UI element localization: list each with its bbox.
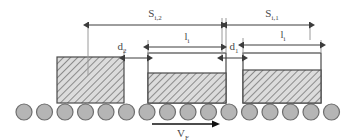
roller <box>262 104 278 120</box>
label-spacing-left: Si,2 <box>148 7 162 22</box>
slab-left <box>57 57 124 103</box>
slab-right <box>243 53 321 103</box>
dimension-length-right: li <box>244 28 320 45</box>
dimension-length-middle: li <box>149 30 221 47</box>
roller <box>221 104 237 120</box>
roller-row <box>16 104 340 120</box>
schematic-svg: Si,2 Si,1 d2 li d1 li VF <box>0 0 347 140</box>
dimension-spacing-right: Si,1 <box>227 7 309 25</box>
roller <box>242 104 258 120</box>
label-spacing-right: Si,1 <box>265 7 279 22</box>
roller <box>201 104 217 120</box>
roller <box>180 104 196 120</box>
dimension-gap-left: d2 <box>118 40 148 58</box>
roller <box>160 104 176 120</box>
roller <box>16 104 32 120</box>
label-length-right: li <box>280 28 285 43</box>
diagram-canvas: Si,2 Si,1 d2 li d1 li VF <box>0 0 347 140</box>
roller <box>119 104 135 120</box>
label-gap-right: d1 <box>230 40 240 55</box>
roller <box>37 104 53 120</box>
label-gap-left: d2 <box>118 40 128 55</box>
roller <box>324 104 340 120</box>
label-length-middle: li <box>184 30 189 45</box>
slab-middle <box>148 53 226 103</box>
roller <box>283 104 299 120</box>
dimension-spacing-left: Si,2 <box>89 7 221 25</box>
velocity-arrow: VF <box>152 124 212 140</box>
roller <box>303 104 319 120</box>
roller <box>57 104 73 120</box>
roller <box>98 104 114 120</box>
roller <box>139 104 155 120</box>
roller <box>78 104 94 120</box>
label-velocity: VF <box>177 127 189 140</box>
